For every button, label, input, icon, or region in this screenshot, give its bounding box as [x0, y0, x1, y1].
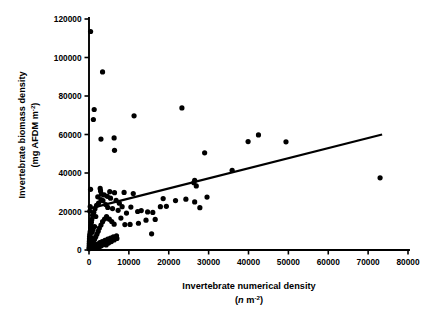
- data-point: [121, 190, 126, 195]
- y-axis-tick-labels: 020000400006000080000100000120000: [54, 14, 82, 255]
- data-point: [93, 214, 98, 219]
- x-tick-label: 40000: [237, 257, 260, 267]
- data-point: [91, 117, 96, 122]
- data-point: [112, 222, 117, 227]
- data-point: [204, 194, 209, 199]
- data-point: [131, 191, 136, 196]
- x-axis-tick-labels: 0100002000030000400005000060000700008000…: [87, 257, 420, 267]
- x-tick-label: 10000: [117, 257, 140, 267]
- data-point: [183, 197, 188, 202]
- data-point: [90, 230, 95, 235]
- data-point: [149, 231, 154, 236]
- data-point: [124, 210, 129, 215]
- data-point: [127, 222, 132, 227]
- data-point: [114, 236, 119, 241]
- data-point: [88, 187, 93, 192]
- y-tick-label: 100000: [54, 53, 82, 63]
- data-point: [283, 139, 288, 144]
- x-tick-label: 50000: [277, 257, 300, 267]
- x-axis-units: (n m-2): [235, 294, 263, 305]
- y-tick-label: 20000: [58, 207, 81, 217]
- data-point: [173, 198, 178, 203]
- data-point: [194, 183, 199, 188]
- data-point: [112, 148, 117, 153]
- x-tick-label: 20000: [157, 257, 180, 267]
- data-point: [87, 244, 92, 249]
- data-point: [139, 208, 144, 213]
- data-point: [164, 204, 169, 209]
- regression-trendline: [89, 135, 382, 209]
- data-point: [122, 222, 127, 227]
- y-tick-label: 40000: [58, 168, 81, 178]
- x-tick-label: 30000: [197, 257, 220, 267]
- data-point: [150, 210, 155, 215]
- data-point: [128, 204, 133, 209]
- chart-svg: 0100002000030000400005000060000700008000…: [0, 0, 426, 313]
- data-point: [377, 175, 382, 180]
- data-point: [145, 209, 150, 214]
- data-point: [107, 189, 112, 194]
- data-point: [88, 240, 93, 245]
- x-axis-title: Invertebrate numerical density: [182, 281, 316, 291]
- data-point: [98, 137, 103, 142]
- data-point: [92, 107, 97, 112]
- y-tick-label: 120000: [54, 14, 82, 24]
- data-point: [197, 205, 202, 210]
- x-tick-label: 70000: [357, 257, 380, 267]
- y-axis-title: Invertebrate biomass density: [17, 71, 27, 199]
- y-tick-label: 60000: [58, 130, 81, 140]
- data-point: [116, 208, 121, 213]
- data-point: [143, 218, 148, 223]
- data-point: [161, 196, 166, 201]
- data-point: [100, 69, 105, 74]
- data-point: [256, 132, 261, 137]
- data-point: [112, 135, 117, 140]
- scatter-chart-figure: 0100002000030000400005000060000700008000…: [0, 0, 426, 313]
- data-point: [246, 139, 251, 144]
- y-tick-label: 80000: [58, 91, 81, 101]
- data-point: [118, 215, 123, 220]
- data-point: [202, 150, 207, 155]
- y-tick-label: 0: [77, 245, 82, 255]
- data-point: [110, 206, 115, 211]
- data-point: [153, 217, 158, 222]
- data-point: [179, 105, 184, 110]
- axes-group: [89, 18, 409, 250]
- data-points-group: [87, 29, 383, 252]
- x-tick-label: 60000: [317, 257, 340, 267]
- data-point: [88, 29, 93, 34]
- data-point: [131, 113, 136, 118]
- data-point: [112, 190, 117, 195]
- data-point: [89, 235, 94, 240]
- data-point: [136, 221, 141, 226]
- y-axis-units: (mg AFDM m-2): [29, 103, 40, 168]
- x-tick-label: 0: [87, 257, 92, 267]
- x-tick-label: 80000: [396, 257, 419, 267]
- data-point: [192, 199, 197, 204]
- data-point: [158, 204, 163, 209]
- data-point: [95, 194, 100, 199]
- data-point: [102, 192, 107, 197]
